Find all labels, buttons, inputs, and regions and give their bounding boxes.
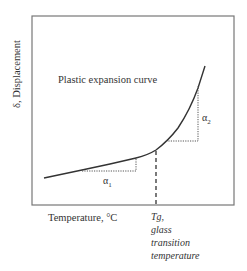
tg-line-3: transition: [151, 236, 200, 249]
plot-frame: [32, 16, 234, 205]
alpha1-label: α1: [103, 175, 112, 189]
x-axis-label: Temperature, °C: [48, 212, 117, 223]
alpha2-subscript: 2: [207, 118, 211, 126]
tg-line-4: temperature: [151, 249, 200, 262]
diagram-canvas: [0, 0, 247, 271]
alpha2-label: α2: [202, 112, 211, 126]
alpha1-subscript: 1: [108, 181, 112, 189]
tg-line-2: glass: [151, 223, 200, 236]
tg-annotation: Tg, glass transition temperature: [151, 210, 200, 262]
y-axis-label: δ, Displacement: [11, 40, 22, 108]
alpha2-slope-triangle: [166, 86, 198, 141]
tg-line-1: Tg,: [151, 210, 200, 223]
expansion-diagram: Plastic expansion curve δ, Displacement …: [0, 0, 247, 271]
curve-title: Plastic expansion curve: [58, 74, 157, 85]
